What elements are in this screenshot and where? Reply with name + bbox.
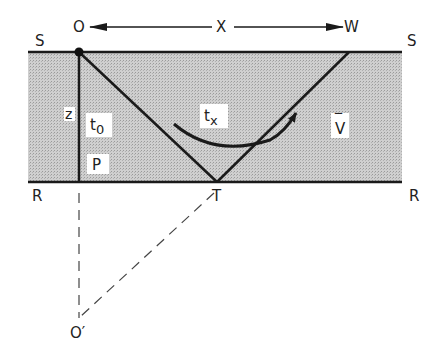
image-ray-dashed — [80, 193, 214, 317]
normal-point-label: P — [92, 156, 101, 174]
seismic-reflection-diagram: O X W S S R R z t0 P T tx ‾ V O′ — [0, 0, 447, 357]
origin-label: O — [73, 18, 85, 36]
surface-label-left: S — [35, 32, 45, 50]
source-point — [75, 48, 84, 57]
reflector-label-left: R — [32, 187, 42, 205]
receiver-label: W — [344, 18, 359, 36]
surface-label-right: S — [407, 32, 417, 50]
reflector-label-right: R — [409, 187, 419, 205]
depth-label: z — [65, 106, 72, 122]
image-source-label: O′ — [70, 324, 86, 342]
offset-label: X — [216, 18, 226, 36]
reflection-point-label: T — [211, 187, 222, 205]
velocity-label: V — [335, 120, 346, 138]
